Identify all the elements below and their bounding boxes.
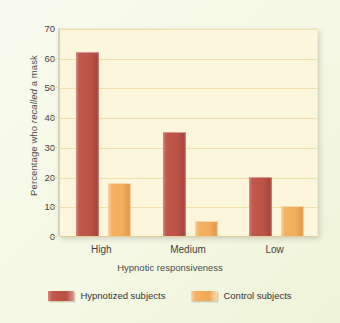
- y-tick-mark: [49, 236, 57, 237]
- y-tick-mark: [49, 147, 57, 148]
- legend-swatch-red: [48, 291, 74, 301]
- x-tick-label-low: Low: [235, 244, 315, 255]
- bar-medium-hypnotized: [163, 132, 186, 236]
- y-tick-mark: [49, 58, 57, 59]
- plot-inner: [60, 29, 317, 236]
- legend-entry-hypnotized: Hypnotized subjects: [48, 290, 165, 301]
- chart-legend: Hypnotized subjectsControl subjects: [0, 290, 340, 301]
- bar-high-control: [108, 183, 131, 236]
- x-tick-label-high: High: [61, 244, 141, 255]
- y-tick-label: 70: [29, 23, 55, 34]
- legend-entry-control: Control subjects: [191, 290, 291, 301]
- legend-label: Control subjects: [223, 290, 291, 301]
- y-tick-mark: [49, 117, 57, 118]
- legend-label: Hypnotized subjects: [80, 290, 165, 301]
- chart-figure: Percentage who recalled a mask 010203040…: [0, 0, 340, 323]
- x-axis-title: Hypnotic responsiveness: [0, 262, 340, 273]
- gridline: [60, 29, 317, 30]
- y-axis-title-prefix: Percentage who: [28, 123, 39, 196]
- x-tick-label-medium: Medium: [148, 244, 228, 255]
- y-tick-mark: [49, 206, 57, 207]
- plot-area: [58, 28, 318, 236]
- bar-high-hypnotized: [76, 52, 99, 236]
- legend-swatch-orange: [191, 291, 217, 301]
- axis-baseline: [60, 236, 317, 237]
- bar-low-control: [281, 206, 304, 236]
- bar-medium-control: [195, 221, 218, 236]
- y-tick-mark: [49, 87, 57, 88]
- bar-low-hypnotized: [249, 177, 272, 236]
- y-tick-mark: [49, 177, 57, 178]
